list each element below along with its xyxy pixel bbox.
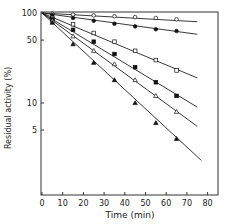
open-square-marker — [92, 31, 96, 35]
series-6 — [42, 13, 201, 160]
y-tick-label: 50 — [27, 36, 37, 45]
x-tick-label: 20 — [78, 199, 88, 208]
x-tick-label: 10 — [58, 199, 68, 208]
open-circle-marker — [113, 14, 117, 18]
filled-circle-marker — [133, 25, 137, 29]
filled-circle-marker — [92, 19, 96, 23]
filled-triangle-marker — [133, 101, 137, 105]
y-axis-label: Residual activity (%) — [4, 67, 13, 149]
filled-circle-marker — [175, 29, 179, 33]
fit-line — [42, 13, 197, 34]
x-tick-label: 50 — [140, 199, 150, 208]
filled-square-marker — [71, 28, 75, 32]
open-circle-marker — [92, 14, 96, 18]
open-circle-marker — [154, 16, 158, 20]
open-circle-marker — [175, 18, 179, 22]
filled-circle-marker — [113, 22, 117, 26]
open-triangle-marker — [92, 49, 96, 53]
y-tick-label: 5 — [32, 126, 37, 135]
filled-circle-marker — [154, 27, 158, 31]
x-tick-label: 60 — [161, 199, 171, 208]
fit-line — [42, 13, 197, 126]
filled-triangle-marker — [154, 121, 158, 125]
series-2 — [42, 13, 197, 34]
series-1 — [42, 12, 197, 22]
x-tick-label: 0 — [39, 199, 44, 208]
filled-square-marker — [154, 80, 158, 84]
filled-square-marker — [92, 40, 96, 44]
series-4 — [42, 13, 197, 107]
open-square-marker — [154, 58, 158, 62]
chart: 01020304050607080 10050105 Time (min) Re… — [0, 0, 233, 224]
open-square-marker — [175, 69, 179, 73]
open-triangle-marker — [112, 62, 116, 66]
x-tick-label: 30 — [99, 199, 109, 208]
open-square-marker — [133, 49, 137, 53]
series-group — [42, 12, 201, 160]
filled-triangle-marker — [71, 42, 75, 46]
x-axis-label: Time (min) — [105, 210, 155, 220]
open-circle-marker — [133, 15, 137, 19]
series-5 — [42, 13, 197, 126]
y-tick-label: 10 — [27, 99, 37, 108]
filled-circle-marker — [71, 16, 75, 20]
fit-line — [42, 13, 197, 78]
x-tick-label: 80 — [203, 199, 213, 208]
open-square-marker — [113, 40, 117, 44]
open-square-marker — [71, 22, 75, 26]
filled-square-marker — [113, 52, 117, 56]
x-tick-label: 70 — [182, 199, 192, 208]
series-3 — [42, 13, 197, 78]
x-tick-label: 40 — [120, 199, 130, 208]
filled-square-marker — [175, 94, 179, 98]
y-tick-label: 100 — [22, 9, 37, 18]
fit-line — [42, 13, 197, 107]
filled-square-marker — [133, 65, 137, 69]
fit-line — [42, 13, 197, 22]
x-axis: 01020304050607080 — [39, 192, 212, 208]
